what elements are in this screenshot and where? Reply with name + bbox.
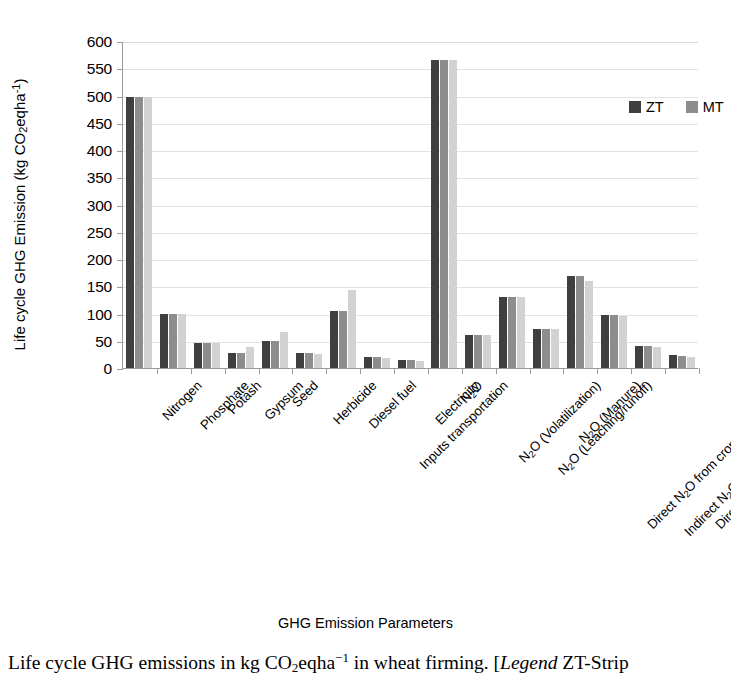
x-axis-tick: [191, 368, 192, 374]
bar: [330, 311, 338, 368]
y-axis-tick-label: 50: [0, 333, 112, 351]
y-axis-tick-label: 500: [0, 88, 112, 106]
x-axis-tick: [326, 368, 327, 374]
y-axis-tick-label: 0: [0, 360, 112, 378]
bar: [542, 329, 550, 368]
bar: [382, 358, 390, 368]
bar: [474, 335, 482, 368]
bar: [398, 360, 406, 368]
bar-groups: [123, 42, 698, 368]
bar: [440, 60, 448, 368]
bar-group: [330, 42, 357, 368]
bar-group: [126, 42, 153, 368]
bar-group: [431, 42, 458, 368]
x-axis-tick: [157, 368, 158, 374]
bar: [431, 60, 439, 368]
x-axis-tick: [394, 368, 395, 374]
bar: [601, 315, 609, 368]
caption-superscript: −1: [335, 650, 349, 665]
x-axis-tick: [428, 368, 429, 374]
bar: [160, 314, 168, 368]
legend-label: ZT: [646, 99, 664, 115]
bar: [305, 353, 313, 368]
y-axis-tick-label: 600: [0, 33, 112, 51]
bar-group: [296, 42, 323, 368]
bar: [533, 329, 541, 368]
y-axis-tick-label: 250: [0, 224, 112, 242]
plot-area: ZTMTCT: [122, 42, 698, 369]
bar: [246, 347, 254, 368]
y-axis-tick-label: 450: [0, 115, 112, 133]
x-axis-title: GHG Emission Parameters: [0, 615, 731, 631]
bar: [194, 343, 202, 368]
bar: [653, 347, 661, 368]
bar: [567, 276, 575, 368]
bar: [687, 357, 695, 368]
bar: [678, 356, 686, 368]
bar: [483, 335, 491, 368]
bar: [508, 297, 516, 368]
x-axis-tick: [597, 368, 598, 374]
y-axis-tick: [117, 369, 123, 370]
x-axis-tick: [699, 368, 700, 374]
bar-group: [567, 42, 594, 368]
bar: [126, 97, 134, 368]
x-axis-tick: [631, 368, 632, 374]
y-axis-tick-label: 150: [0, 278, 112, 296]
bar: [449, 60, 457, 368]
bar: [576, 276, 584, 368]
bar: [169, 314, 177, 368]
legend-item: ZT: [629, 99, 664, 115]
bar: [178, 314, 186, 368]
bar: [499, 297, 507, 368]
legend-swatch: [686, 101, 698, 113]
legend-swatch: [629, 101, 641, 113]
x-axis-tick: [462, 368, 463, 374]
bar: [348, 290, 356, 368]
bar-group: [398, 42, 425, 368]
x-axis-tick: [292, 368, 293, 374]
bar: [271, 341, 279, 368]
bar: [585, 281, 593, 368]
caption-part2: eqha: [298, 652, 335, 673]
bar-group: [601, 42, 628, 368]
bar: [280, 332, 288, 368]
y-axis-tick-label: 350: [0, 169, 112, 187]
bar: [619, 316, 627, 368]
legend-item: MT: [686, 99, 724, 115]
bar-group: [262, 42, 289, 368]
y-axis-tick-label: 200: [0, 251, 112, 269]
bar-group: [635, 42, 662, 368]
bar: [314, 354, 322, 368]
y-axis-tick-label: 100: [0, 306, 112, 324]
caption-part4: ZT-Strip: [557, 652, 628, 673]
bar: [407, 360, 415, 368]
chart-legend: ZTMTCT: [629, 99, 731, 115]
bar: [610, 315, 618, 368]
bar-group: [228, 42, 255, 368]
figure-container: Life cycle GHG Emission (kg CO2eqha-1) 6…: [0, 0, 731, 679]
bar: [551, 329, 559, 368]
figure-caption: Life cycle GHG emissions in kg CO2eqha−1…: [8, 650, 731, 676]
bar: [228, 353, 236, 368]
y-axis-tick-label: 400: [0, 142, 112, 160]
x-axis-tick: [530, 368, 531, 374]
bar: [237, 353, 245, 368]
y-axis-tick-label: 300: [0, 197, 112, 215]
x-axis-tick: [665, 368, 666, 374]
bar: [296, 353, 304, 368]
bar: [373, 357, 381, 368]
bar: [339, 311, 347, 368]
bar-group: [160, 42, 187, 368]
bar-group: [465, 42, 492, 368]
x-axis-tick: [496, 368, 497, 374]
caption-part1: Life cycle GHG emissions in kg CO: [8, 652, 292, 673]
x-axis-tick: [225, 368, 226, 374]
bar: [669, 355, 677, 368]
bar: [364, 357, 372, 368]
bar-group: [364, 42, 391, 368]
bar-group: [499, 42, 526, 368]
legend-label: MT: [703, 99, 724, 115]
bar: [212, 343, 220, 368]
y-axis-tick-label: 550: [0, 60, 112, 78]
